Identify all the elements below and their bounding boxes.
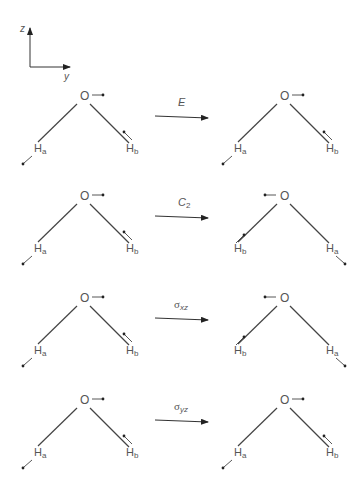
after-right-hydrogen-displacement-arrow [325,437,332,444]
before-left-hydrogen-label: Ha [34,446,47,460]
before-bond-right [90,306,129,345]
after-right-hydrogen-label: Ha [326,344,339,358]
after-oxygen-label: O [280,393,289,407]
before-oxygen-label: O [80,89,89,103]
after-bond-left [238,104,277,142]
after-left-hydrogen-label: Ha [234,446,247,460]
operation-label: E [178,96,186,108]
before-right-hydrogen-displacement-arrow [125,233,132,240]
after-bond-left [238,408,277,446]
before-right-hydrogen-displacement-arrow [125,335,132,342]
operation-label: σyz [174,400,188,414]
after-oxygen-displacement-tip [302,398,305,401]
symmetry-operations-diagram: z y OHaHbEOHaHbOHaHbC2OHbHaOHaHbσxzOHbHa… [0,0,363,491]
after-left-hydrogen-label: Hb [234,344,247,358]
before-bond-left [38,204,77,242]
after-bond-right [290,204,329,243]
operation-label: σxz [174,298,188,312]
before-right-hydrogen-displacement-tip [123,333,126,336]
after-right-hydrogen-displacement-tip [323,131,326,134]
after-oxygen-displacement-tip [302,94,305,97]
after-left-hydrogen-displacement-tip [222,163,225,166]
before-right-hydrogen-displacement-tip [123,131,126,134]
before-oxygen-displacement-tip [102,94,105,97]
after-bond-right [290,306,329,345]
operation-row: OHaHbσxzOHbHa [22,291,347,367]
before-left-hydrogen-displacement-tip [22,263,25,266]
before-oxygen-displacement-tip [102,398,105,401]
before-oxygen-displacement-tip [102,194,105,197]
operation-row: OHaHbC2OHbHa [22,189,347,265]
before-right-hydrogen-label: Hb [126,242,139,256]
before-right-hydrogen-displacement-tip [123,231,126,234]
before-left-hydrogen-displacement-arrow [24,358,32,365]
y-axis-label: y [63,71,70,82]
before-right-hydrogen-label: Hb [126,446,139,460]
operation-row: OHaHbEOHaHb [22,89,339,165]
after-oxygen-label: O [280,291,289,305]
after-right-hydrogen-label: Hb [326,446,339,460]
after-bond-right [290,104,329,143]
before-bond-left [38,306,77,344]
before-bond-right [90,204,129,243]
operation-arrow [155,116,208,118]
after-left-hydrogen-displacement-tip [243,336,246,339]
before-oxygen-displacement-tip [102,296,105,299]
before-bond-right [90,408,129,447]
after-right-hydrogen-displacement-tip [344,365,347,368]
after-right-hydrogen-displacement-arrow [336,358,344,365]
operation-arrow [155,420,208,422]
after-right-hydrogen-displacement-arrow [325,133,332,140]
before-oxygen-label: O [80,291,89,305]
after-right-hydrogen-label: Ha [326,242,339,256]
before-right-hydrogen-displacement-arrow [125,133,132,140]
rows: OHaHbEOHaHbOHaHbC2OHbHaOHaHbσxzOHbHaOHaH… [22,89,347,469]
coordinate-axes: z y [19,23,70,82]
before-right-hydrogen-label: Hb [126,142,139,156]
before-right-hydrogen-displacement-tip [123,435,126,438]
operation-row: OHaHbσyzOHaHb [22,393,339,469]
operation-arrow [155,318,208,320]
after-left-hydrogen-displacement-tip [243,234,246,237]
after-right-hydrogen-displacement-tip [323,435,326,438]
after-right-hydrogen-displacement-tip [344,263,347,266]
before-bond-left [38,104,77,142]
before-oxygen-label: O [80,393,89,407]
before-left-hydrogen-displacement-arrow [24,256,32,263]
before-left-hydrogen-displacement-tip [22,163,25,166]
z-axis-label: z [19,23,25,34]
after-right-hydrogen-displacement-arrow [336,256,344,263]
operation-label: C2 [178,196,191,210]
before-left-hydrogen-displacement-arrow [24,460,32,467]
before-bond-left [38,408,77,446]
after-oxygen-displacement-tip [264,194,267,197]
operation-arrow [155,216,208,218]
before-left-hydrogen-label: Ha [34,344,47,358]
after-left-hydrogen-label: Hb [234,242,247,256]
after-bond-right [290,408,329,447]
after-right-hydrogen-label: Hb [326,142,339,156]
after-left-hydrogen-label: Ha [234,142,247,156]
before-left-hydrogen-label: Ha [34,142,47,156]
after-left-hydrogen-displacement-arrow [224,460,232,467]
after-oxygen-displacement-tip [264,296,267,299]
before-right-hydrogen-displacement-arrow [125,437,132,444]
after-oxygen-label: O [280,89,289,103]
before-left-hydrogen-label: Ha [34,242,47,256]
before-right-hydrogen-label: Hb [126,344,139,358]
after-oxygen-label: O [280,189,289,203]
before-left-hydrogen-displacement-tip [22,365,25,368]
after-left-hydrogen-displacement-arrow [224,156,232,163]
before-oxygen-label: O [80,189,89,203]
after-left-hydrogen-displacement-tip [222,467,225,470]
before-left-hydrogen-displacement-arrow [24,156,32,163]
before-left-hydrogen-displacement-tip [22,467,25,470]
before-bond-right [90,104,129,143]
